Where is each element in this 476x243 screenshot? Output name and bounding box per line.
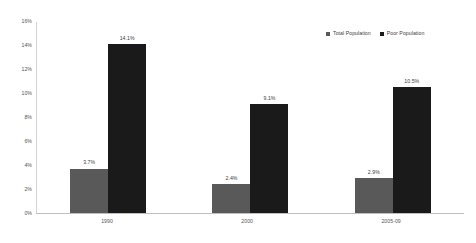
y-axis-tick: 10% xyxy=(21,91,32,96)
chart-legend: Total Population Poor Population xyxy=(326,31,424,36)
x-axis-labels: 199020002005-09 xyxy=(37,219,465,224)
x-axis-label: 2005-09 xyxy=(381,219,400,224)
bar-wrapper: 2.9% xyxy=(355,22,393,213)
x-axis-label: 2000 xyxy=(241,219,253,224)
bar-wrapper: 3.7% xyxy=(70,22,108,213)
x-axis-label: 1990 xyxy=(101,219,113,224)
bar[interactable] xyxy=(70,169,108,213)
y-axis-tick: 12% xyxy=(21,67,32,72)
y-axis-tick: 16% xyxy=(21,19,32,24)
y-axis-tick: 14% xyxy=(21,43,32,48)
y-axis-tick: 0% xyxy=(24,211,32,216)
bar-chart: Total Population Poor Population 16%14%1… xyxy=(0,0,476,243)
y-axis-tick: 6% xyxy=(24,139,32,144)
bar[interactable] xyxy=(393,87,431,213)
bar[interactable] xyxy=(212,184,250,213)
bar-wrapper: 10.5% xyxy=(393,22,431,213)
bar-value-label: 2.9% xyxy=(368,170,380,175)
bar[interactable] xyxy=(355,178,393,213)
bar-group: 2.9%10.5% xyxy=(355,22,431,213)
bar-group: 2.4%9.1% xyxy=(212,22,288,213)
bar-value-label: 14.1% xyxy=(120,36,135,41)
bar-value-label: 3.7% xyxy=(83,160,95,165)
plot-area: 16%14%12%10%8%6%4%2%0% 3.7%14.1%2.4%9.1%… xyxy=(36,22,464,214)
legend-label-total-population: Total Population xyxy=(333,31,371,36)
bar-wrapper: 14.1% xyxy=(108,22,146,213)
bar-wrapper: 2.4% xyxy=(212,22,250,213)
bar[interactable] xyxy=(108,44,146,213)
bar-wrapper: 9.1% xyxy=(250,22,288,213)
y-axis-tick: 8% xyxy=(24,115,32,120)
bar-value-label: 10.5% xyxy=(404,79,419,84)
bar[interactable] xyxy=(250,104,288,213)
legend-item-poor-population[interactable]: Poor Population xyxy=(380,31,425,36)
y-axis-tick: 4% xyxy=(24,163,32,168)
x-axis-line xyxy=(36,213,464,214)
legend-swatch-total-population xyxy=(326,32,330,36)
bar-groups: 3.7%14.1%2.4%9.1%2.9%10.5% xyxy=(37,22,464,213)
bar-value-label: 2.4% xyxy=(225,176,237,181)
legend-item-total-population[interactable]: Total Population xyxy=(326,31,371,36)
y-axis-tick: 2% xyxy=(24,187,32,192)
legend-swatch-poor-population xyxy=(380,32,384,36)
bar-group: 3.7%14.1% xyxy=(70,22,146,213)
legend-label-poor-population: Poor Population xyxy=(387,31,425,36)
bar-value-label: 9.1% xyxy=(263,96,275,101)
